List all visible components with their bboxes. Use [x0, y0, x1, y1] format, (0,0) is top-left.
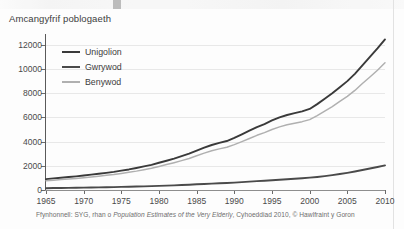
y-tick-label-10000: 10000: [18, 64, 42, 74]
x-tick-label-2010: 2010: [376, 196, 395, 206]
legend-item-unigolion[interactable]: Unigolion: [62, 45, 122, 58]
x-tick-label-2000: 2000: [300, 196, 319, 206]
y-tick-label-6000: 6000: [23, 112, 42, 122]
x-tick-mark-2010: [385, 190, 386, 194]
legend-label-gwrywod: Gwrywod: [85, 62, 122, 72]
page-right-border: [393, 0, 394, 229]
legend-swatch-gwrywod: [62, 66, 80, 68]
legend: Unigolion Gwrywod Benywod: [62, 45, 122, 90]
x-tick-label-1970: 1970: [74, 196, 93, 206]
y-tick-label-0: 0: [37, 185, 42, 195]
top-edge-artifact: [0, 0, 404, 9]
y-tick-label-2000: 2000: [23, 161, 42, 171]
legend-swatch-unigolion: [62, 51, 80, 53]
legend-label-unigolion: Unigolion: [85, 47, 122, 57]
legend-swatch-benywod: [62, 81, 80, 83]
footnote-prefix: Ffynhonnell: SYG, rhan o: [36, 211, 113, 218]
y-axis-ticks: 020004000600080001000012000: [0, 0, 42, 229]
footnote-publication-title: Population Estimates of the Very Elderly: [113, 211, 232, 218]
x-tick-label-1965: 1965: [37, 196, 56, 206]
x-tick-label-1990: 1990: [225, 196, 244, 206]
x-tick-label-1985: 1985: [187, 196, 206, 206]
legend-item-gwrywod[interactable]: Gwrywod: [62, 60, 122, 73]
footnote-suffix: , Cyhoeddiad 2010, © Hawlfraint y Goron: [233, 211, 355, 218]
x-tick-label-1980: 1980: [150, 196, 169, 206]
x-tick-label-2005: 2005: [338, 196, 357, 206]
chart-figure: Amcangyfrif poblogaeth 02000400060008000…: [0, 0, 404, 229]
source-footnote: Ffynhonnell: SYG, rhan o Population Esti…: [36, 211, 355, 218]
legend-label-benywod: Benywod: [85, 77, 121, 87]
x-tick-label-1975: 1975: [112, 196, 131, 206]
gridline-0: [46, 190, 385, 191]
y-tick-label-8000: 8000: [23, 88, 42, 98]
legend-item-benywod[interactable]: Benywod: [62, 75, 122, 88]
artifact-block: [113, 0, 121, 9]
x-tick-label-1995: 1995: [263, 196, 282, 206]
y-tick-label-12000: 12000: [18, 40, 42, 50]
y-tick-label-4000: 4000: [23, 137, 42, 147]
